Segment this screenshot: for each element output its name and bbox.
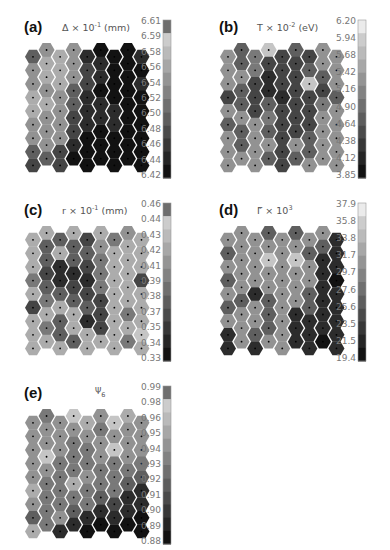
node-marker: [308, 348, 310, 350]
colorbar-band: [358, 152, 366, 166]
node-marker: [281, 56, 283, 58]
node-marker: [86, 56, 88, 58]
node-marker: [281, 83, 283, 85]
node-marker: [59, 56, 61, 58]
node-marker: [100, 429, 102, 431]
node-marker: [100, 259, 102, 261]
colorbar-band: [163, 152, 171, 166]
node-marker: [113, 83, 115, 85]
node-marker: [241, 232, 243, 234]
node-marker: [281, 124, 283, 126]
node-marker: [308, 110, 310, 112]
colorbar-band: [163, 452, 171, 466]
node-marker: [295, 63, 297, 65]
colorbar-tick-label: 5.94: [336, 33, 356, 43]
colorbar-tick-label: 0.93: [141, 459, 161, 469]
colorbar-tick-label: 6.48: [141, 124, 161, 134]
colorbar-tick-label: 6.52: [141, 93, 161, 103]
node-marker: [73, 273, 75, 275]
colorbar-band: [358, 46, 366, 60]
node-marker: [32, 97, 34, 99]
node-marker: [227, 137, 229, 139]
node-marker: [59, 449, 61, 451]
colorbar-band: [163, 203, 171, 217]
node-marker: [227, 110, 229, 112]
node-marker: [86, 124, 88, 126]
colorbar-band: [163, 308, 171, 322]
colorbar-band: [163, 99, 171, 113]
colorbar-band: [163, 139, 171, 153]
node-marker: [32, 348, 34, 350]
node-marker: [295, 341, 297, 343]
node-marker: [281, 334, 283, 336]
colorbar-tick-label: 0.33: [141, 353, 161, 363]
node-marker: [254, 239, 256, 241]
node-marker: [254, 56, 256, 58]
node-marker: [281, 252, 283, 254]
colorbar-tick-label: 27.6: [336, 285, 356, 295]
colorbar-tick-label: 6.42: [141, 170, 161, 180]
node-marker: [59, 165, 61, 167]
hex-map: [195, 183, 390, 365]
node-marker: [73, 327, 75, 329]
colorbar-tick-label: 0.94: [141, 444, 161, 454]
node-marker: [100, 510, 102, 512]
node-marker: [268, 76, 270, 78]
colorbar-tick-label: 0.96: [141, 413, 161, 423]
colorbar-tick-label: 5.16: [336, 84, 356, 94]
node-marker: [46, 524, 48, 526]
colorbar-tick-label: 25.6: [336, 302, 356, 312]
colorbar-band: [163, 478, 171, 492]
node-marker: [100, 286, 102, 288]
colorbar-ticks: 37.935.833.831.729.727.625.623.521.519.4: [324, 203, 356, 361]
node-marker: [73, 103, 75, 105]
node-marker: [59, 110, 61, 112]
node-marker: [100, 483, 102, 485]
node-marker: [268, 286, 270, 288]
colorbar-band: [163, 505, 171, 519]
node-marker: [59, 490, 61, 492]
node-marker: [295, 117, 297, 119]
colorbar-band: [358, 20, 366, 34]
node-marker: [295, 158, 297, 160]
node-marker: [86, 97, 88, 99]
node-marker: [32, 422, 34, 424]
node-marker: [86, 334, 88, 336]
node-marker: [32, 334, 34, 336]
node-marker: [59, 97, 61, 99]
node-marker: [86, 293, 88, 295]
node-marker: [100, 442, 102, 444]
node-marker: [59, 137, 61, 139]
node-marker: [281, 137, 283, 139]
node-marker: [59, 435, 61, 437]
colorbar-tick-label: 33.8: [336, 233, 356, 243]
node-marker: [73, 497, 75, 499]
node-marker: [227, 280, 229, 282]
node-marker: [295, 76, 297, 78]
colorbar-band: [358, 165, 366, 179]
node-marker: [100, 117, 102, 119]
colorbar-band: [163, 86, 171, 100]
colorbar-band: [163, 439, 171, 453]
node-marker: [32, 476, 34, 478]
colorbar-band: [358, 269, 366, 283]
node-marker: [46, 429, 48, 431]
node-marker: [254, 252, 256, 254]
node-marker: [308, 137, 310, 139]
node-marker: [59, 124, 61, 126]
node-marker: [86, 165, 88, 167]
colorbar-tick-label: 6.46: [141, 139, 161, 149]
node-marker: [46, 246, 48, 248]
node-marker: [59, 320, 61, 322]
colorbar-band: [163, 399, 171, 413]
colorbar-band: [163, 335, 171, 349]
node-marker: [46, 456, 48, 458]
colorbar-tick-label: 4.64: [336, 119, 356, 129]
node-marker: [113, 151, 115, 153]
node-marker: [100, 131, 102, 133]
colorbar-band: [163, 20, 171, 34]
colorbar-band: [163, 412, 171, 426]
colorbar-band: [163, 295, 171, 309]
colorbar-tick-label: 6.50: [141, 108, 161, 118]
node-marker: [32, 435, 34, 437]
